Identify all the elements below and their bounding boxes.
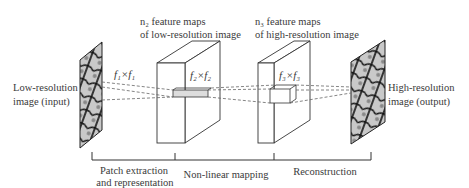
stage-reconstruction: Reconstruction [290, 165, 360, 178]
output-label-line2: image (output) [388, 95, 450, 108]
stage-bracket [92, 152, 371, 160]
input-image [80, 42, 102, 148]
filter2-label: f₂×f₂ [190, 69, 211, 81]
output-label-line1: High-resolution [388, 81, 455, 94]
layer1-maps-label-line2: of low-resolution image [140, 28, 241, 41]
stage-non-linear-mapping: Non-linear mapping [180, 168, 272, 181]
layer2-maps-label-line2: of high-resolution image [255, 28, 359, 41]
input-label-line2: image (input) [13, 95, 70, 108]
stage-patch-extraction-line2: and representation [90, 176, 180, 188]
input-label-line1: Low-resolution [13, 81, 78, 94]
layer2-maps-label-line1: n₃ feature maps [255, 15, 320, 28]
dashed-connectors [102, 82, 351, 103]
filter1-label: f₁×f₁ [114, 68, 135, 80]
output-image [351, 40, 385, 144]
layer1-maps-label-line1: n₂ feature maps [140, 15, 205, 28]
filter3-label: f₃×f₃ [279, 69, 300, 81]
